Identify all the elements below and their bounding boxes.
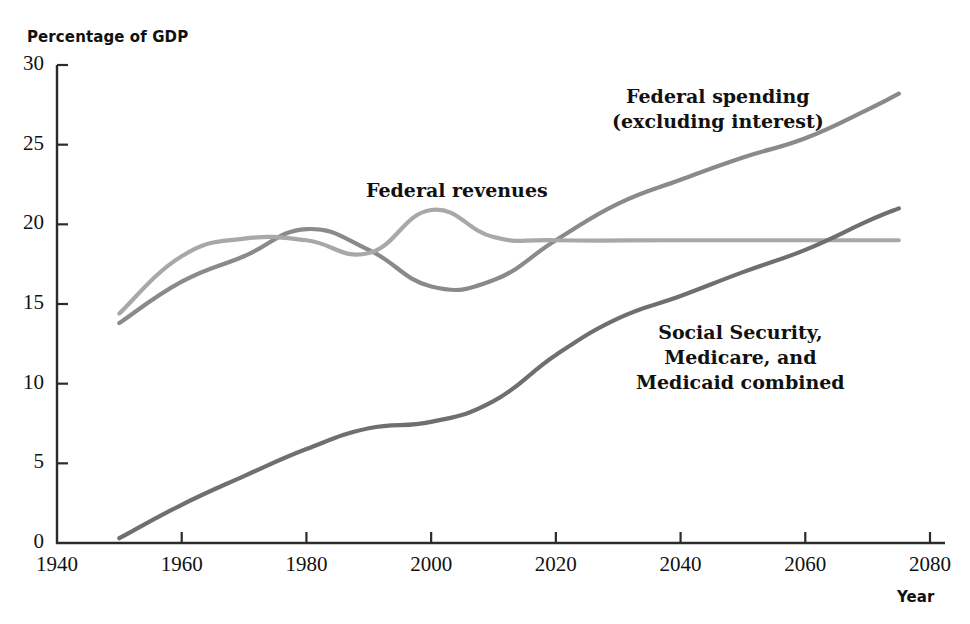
y-tick-label: 20 <box>8 210 44 235</box>
series-label-line-1: Federal spending <box>612 84 824 109</box>
y-tick-label: 15 <box>8 290 44 315</box>
series-lines <box>119 94 898 539</box>
series-label-line-1: Social Security, <box>636 320 845 345</box>
y-tick-label: 10 <box>8 370 44 395</box>
y-tick-label: 5 <box>8 449 44 474</box>
series-label-federal-revenues: Federal revenues <box>366 178 548 203</box>
y-tick-label: 0 <box>8 529 44 554</box>
chart-canvas: Percentage of GDP Year 302520151050 1940… <box>0 0 970 624</box>
series-label-line-2: (excluding interest) <box>612 109 824 134</box>
x-tick-label: 2080 <box>895 552 965 577</box>
series-label-line-3: Medicaid combined <box>636 370 845 395</box>
x-tick-label: 2040 <box>646 552 716 577</box>
y-tick-label: 30 <box>8 51 44 76</box>
x-tick-label: 1980 <box>271 552 341 577</box>
series-label-entitlements: Social Security, Medicare, and Medicaid … <box>636 320 845 395</box>
x-tick-label: 1960 <box>147 552 217 577</box>
series-label-federal-spending: Federal spending (excluding interest) <box>612 84 824 134</box>
y-tick-label: 25 <box>8 131 44 156</box>
series-label-line-1: Federal revenues <box>366 178 548 203</box>
series-label-line-2: Medicare, and <box>636 345 845 370</box>
x-tick-label: 1940 <box>22 552 92 577</box>
x-tick-label: 2020 <box>521 552 591 577</box>
tick-marks <box>57 65 930 543</box>
x-tick-label: 2060 <box>770 552 840 577</box>
plot-area <box>0 0 970 624</box>
x-tick-label: 2000 <box>396 552 466 577</box>
